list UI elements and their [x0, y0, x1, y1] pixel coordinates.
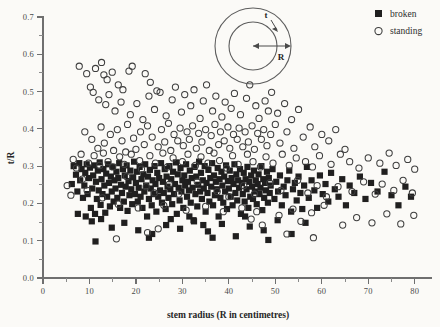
scatter-plot-figure: 0.00.10.20.30.40.50.60.7 010203040506070… [0, 0, 440, 327]
data-point-broken [168, 216, 174, 222]
data-point-standing [98, 59, 104, 65]
data-point-broken [135, 227, 141, 233]
data-point-standing [291, 145, 297, 151]
data-point-standing [92, 65, 98, 71]
data-point-standing [300, 134, 306, 140]
y-tick-label: 0.1 [23, 236, 34, 246]
data-point-standing [365, 155, 371, 161]
data-point-broken [322, 181, 328, 187]
data-point-standing [190, 123, 196, 129]
plot-canvas: 0.00.10.20.30.40.50.60.7 010203040506070… [0, 0, 440, 327]
data-point-standing [95, 145, 101, 151]
data-point-standing [129, 63, 135, 69]
data-point-broken [347, 182, 353, 188]
data-point-standing [213, 93, 219, 99]
data-point-broken [335, 194, 341, 200]
data-point-broken [153, 209, 159, 215]
data-point-broken [290, 186, 296, 192]
data-point-broken [241, 170, 247, 176]
data-point-broken [282, 192, 288, 198]
data-point-standing [137, 157, 143, 163]
y-tick-label: 0.0 [23, 273, 34, 283]
data-point-standing [142, 71, 148, 77]
data-point-broken [109, 225, 115, 231]
data-point-standing [82, 129, 88, 135]
data-point-standing [193, 145, 199, 151]
data-point-broken [92, 211, 98, 217]
data-point-broken [92, 238, 98, 244]
data-point-standing [149, 134, 155, 140]
data-point-broken [98, 202, 104, 208]
data-point-standing [89, 136, 95, 142]
y-tick-label: 0.5 [23, 87, 34, 97]
data-point-broken [73, 172, 79, 178]
data-point-standing [240, 144, 246, 150]
data-point-broken [254, 201, 260, 207]
x-tick-label: 70 [364, 286, 373, 296]
data-point-standing [269, 89, 275, 95]
data-point-standing [234, 136, 240, 142]
data-point-standing [229, 153, 235, 159]
data-point-broken [277, 172, 283, 178]
data-point-broken [211, 172, 217, 178]
data-point-broken [297, 190, 303, 196]
data-point-standing [347, 159, 353, 165]
data-point-standing [104, 77, 110, 83]
data-point-standing [236, 125, 242, 131]
data-point-standing [254, 209, 260, 215]
data-point-broken [181, 172, 187, 178]
data-point-standing [279, 151, 285, 157]
data-point-broken [273, 179, 279, 185]
data-point-broken [279, 202, 285, 208]
inset-center-arrowhead [253, 43, 259, 49]
data-point-broken [129, 201, 135, 207]
legend-marker-broken [375, 10, 382, 17]
data-point-broken [83, 213, 89, 219]
data-point-broken [74, 188, 80, 194]
data-point-standing [295, 106, 301, 112]
data-point-standing [377, 160, 383, 166]
data-point-standing [140, 116, 146, 122]
data-point-broken [381, 169, 387, 175]
data-point-standing [111, 147, 117, 153]
data-point-standing [120, 87, 126, 93]
inset-thickness-label: t [265, 10, 268, 20]
data-point-standing [106, 91, 112, 97]
data-point-broken [88, 205, 94, 211]
data-point-standing [182, 91, 188, 97]
data-point-standing [216, 141, 222, 147]
data-point-broken [98, 216, 104, 222]
data-point-broken [242, 213, 248, 219]
data-point-standing [249, 123, 255, 129]
data-point-standing [124, 121, 130, 127]
data-point-standing [244, 151, 250, 157]
data-point-standing [333, 127, 339, 133]
data-point-broken [194, 203, 200, 209]
data-point-broken [284, 177, 290, 183]
data-point-standing [134, 100, 140, 106]
data-point-standing [162, 139, 168, 145]
y-tick-label: 0.7 [23, 12, 34, 22]
data-point-broken [106, 180, 112, 186]
legend-label-broken: broken [390, 9, 417, 19]
data-point-standing [131, 135, 137, 141]
data-point-standing [147, 79, 153, 85]
data-point-broken [368, 180, 374, 186]
data-point-standing [282, 100, 288, 106]
data-point-standing [96, 97, 102, 103]
data-point-standing [308, 210, 314, 216]
data-point-standing [113, 236, 119, 242]
data-point-standing [185, 151, 191, 157]
data-point-standing [107, 131, 113, 137]
data-point-standing [155, 226, 161, 232]
data-point-standing [118, 99, 124, 105]
data-point-standing [326, 138, 332, 144]
data-point-standing [169, 97, 175, 103]
data-point-broken [219, 182, 225, 188]
y-axis-title: t/R [6, 152, 16, 165]
data-point-standing [265, 108, 271, 114]
data-point-standing [178, 109, 184, 115]
data-point-standing [141, 141, 147, 147]
data-point-standing [361, 179, 367, 185]
x-tick-label: 50 [271, 286, 280, 296]
